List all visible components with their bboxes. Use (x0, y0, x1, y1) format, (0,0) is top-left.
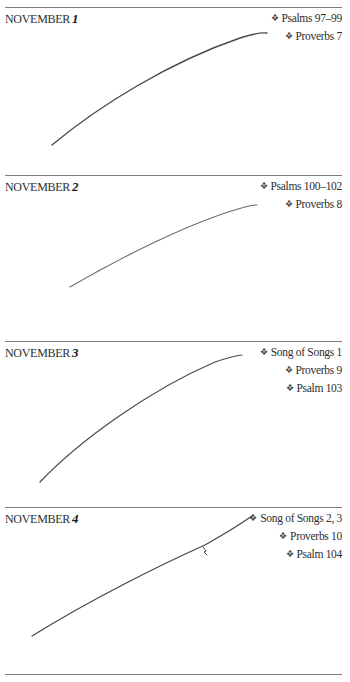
diamond-bullet-icon: ❖ (279, 531, 287, 541)
month-label: NOVEMBER (5, 346, 70, 360)
diamond-bullet-icon: ❖ (260, 181, 268, 191)
diamond-bullet-icon: ❖ (285, 31, 293, 41)
day-heading-nov-4: NOVEMBER4 (5, 511, 78, 527)
readings-list-nov-2: ❖Psalms 100–102 ❖Proverbs 8 (260, 178, 342, 214)
reading-item: ❖Proverbs 7 (271, 28, 342, 46)
diamond-bullet-icon: ❖ (249, 513, 257, 523)
day-number: 3 (72, 345, 78, 360)
section-rule-bottom (5, 674, 342, 675)
section-rule-2 (5, 175, 342, 176)
pen-tick-mark (203, 547, 207, 555)
day-number: 2 (72, 179, 78, 194)
month-label: NOVEMBER (5, 180, 70, 194)
day-heading-nov-1: NOVEMBER1 (5, 11, 78, 27)
section-rule-1 (5, 7, 342, 8)
reading-item: ❖Psalms 97–99 (271, 10, 342, 28)
diamond-bullet-icon: ❖ (271, 13, 279, 23)
readings-list-nov-4: ❖Song of Songs 2, 3 ❖Proverbs 10 ❖Psalm … (249, 510, 342, 564)
readings-list-nov-3: ❖Song of Songs 1 ❖Proverbs 9 ❖Psalm 103 (260, 344, 342, 398)
diamond-bullet-icon: ❖ (285, 199, 293, 209)
reading-item: ❖Psalm 104 (249, 546, 342, 564)
pen-stroke-nov-1 (52, 33, 267, 145)
pen-stroke-nov-4 (32, 516, 252, 636)
day-heading-nov-2: NOVEMBER2 (5, 179, 78, 195)
reading-item: ❖Song of Songs 1 (260, 344, 342, 362)
reading-item: ❖Proverbs 8 (260, 196, 342, 214)
readings-list-nov-1: ❖Psalms 97–99 ❖Proverbs 7 (271, 10, 342, 46)
month-label: NOVEMBER (5, 512, 70, 526)
reading-item: ❖Song of Songs 2, 3 (249, 510, 342, 528)
diamond-bullet-icon: ❖ (286, 383, 294, 393)
day-heading-nov-3: NOVEMBER3 (5, 345, 78, 361)
reading-item: ❖Proverbs 10 (249, 528, 342, 546)
diamond-bullet-icon: ❖ (286, 549, 294, 559)
day-number: 4 (72, 511, 78, 526)
reading-item: ❖Psalm 103 (260, 380, 342, 398)
section-rule-3 (5, 341, 342, 342)
pen-stroke-nov-2 (70, 205, 257, 287)
month-label: NOVEMBER (5, 12, 70, 26)
section-rule-4 (5, 507, 342, 508)
diamond-bullet-icon: ❖ (260, 347, 268, 357)
diamond-bullet-icon: ❖ (285, 365, 293, 375)
reading-item: ❖Psalms 100–102 (260, 178, 342, 196)
day-number: 1 (72, 11, 78, 26)
pen-stroke-nov-3 (40, 355, 242, 482)
reading-item: ❖Proverbs 9 (260, 362, 342, 380)
